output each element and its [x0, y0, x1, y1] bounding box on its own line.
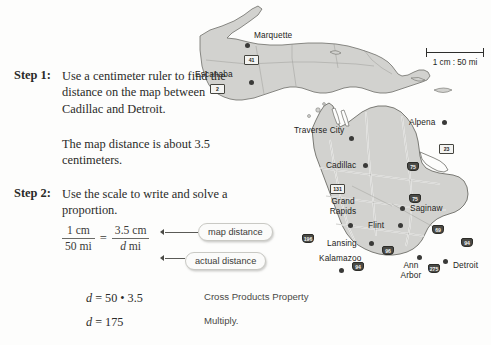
city-dot-saginaw	[400, 206, 405, 211]
route-shield-i-94: 94	[352, 262, 364, 271]
city-dot-traverse-city	[349, 136, 354, 141]
city-dot-detroit	[443, 259, 448, 264]
fraction-left-numerator: 1 cm	[64, 224, 93, 237]
step-2-label: Step 2:	[14, 186, 62, 219]
city-label-ann-arbor-line1: Ann	[403, 260, 418, 270]
city-label-grand-rapids: Grand Rapids	[320, 197, 366, 216]
city-dot-escanaba	[249, 80, 254, 85]
callout-actual-distance: actual distance	[185, 252, 266, 270]
equation-2-reason: Multiply.	[204, 315, 238, 330]
fraction-left: 1 cm 50 mi	[62, 224, 95, 253]
equation-1-expression: d = 50 • 3.5	[86, 291, 204, 306]
route-shield-us-23: 23	[439, 144, 454, 154]
city-dot-flint	[398, 223, 403, 228]
route-shield-i-75-south: 75	[409, 194, 421, 203]
city-label-marquette: Marquette	[254, 31, 292, 41]
city-dot-ann-arbor	[417, 255, 422, 260]
scale-label: 1 cm : 50 mi	[424, 58, 486, 67]
map-scale: 1 cm : 50 mi	[424, 48, 486, 67]
city-label-ann-arbor: Ann Arbor	[398, 261, 424, 280]
route-shield-i-96: 96	[382, 246, 394, 255]
proportion-equation: 1 cm 50 mi = 3.5 cm d mi	[62, 224, 149, 253]
arrowhead-actual-distance	[160, 255, 164, 261]
route-shield-us-131: 131	[330, 184, 345, 194]
step-1-body: Use a centimeter ruler to find the dista…	[62, 68, 237, 117]
fraction-right-denominator: d mi	[117, 240, 144, 253]
step-1-note: The map distance is about 3.5 centimeter…	[62, 136, 242, 169]
city-label-detroit: Detroit	[453, 261, 478, 271]
route-shield-i-275: 275	[428, 264, 440, 273]
step-1-label: Step 1:	[14, 68, 62, 117]
route-shield-i-75: 75	[407, 162, 419, 171]
city-dot-grand-rapids	[348, 223, 353, 228]
city-dot-marquette	[245, 43, 250, 48]
route-shield-i-94-east: 94	[461, 238, 473, 247]
city-label-traverse-city: Traverse City	[294, 126, 344, 136]
worksheet-page: 1 cm : 50 mi Marquette Escanaba Traverse…	[0, 0, 491, 345]
equation-row-1: d = 50 • 3.5 Cross Products Property	[86, 291, 309, 306]
island-shape	[316, 108, 320, 112]
city-dot-kalamazoo	[339, 268, 344, 273]
city-dot-alpena	[442, 120, 447, 125]
city-label-lansing: Lansing	[327, 239, 357, 249]
scale-ruler-icon	[424, 48, 486, 57]
fraction-left-denominator: 50 mi	[62, 240, 95, 253]
city-label-cadillac: Cadillac	[326, 161, 356, 171]
city-label-grand-rapids-line1: Grand	[331, 196, 355, 206]
unit-mi: mi	[129, 240, 141, 253]
arrowhead-map-distance	[160, 229, 164, 235]
arrow-actual-distance	[165, 258, 185, 259]
equals-sign: =	[100, 231, 107, 246]
island-shape	[308, 115, 311, 118]
city-label-alpena: Alpena	[409, 118, 435, 128]
city-label-ann-arbor-line2: Arbor	[401, 270, 422, 280]
island-shape	[323, 103, 326, 106]
city-dot-cadillac	[363, 163, 368, 168]
step-2-body: Use the scale to write and solve a propo…	[62, 186, 247, 219]
equation-2-expression: d = 175	[86, 315, 204, 330]
variable-d: d	[120, 240, 126, 253]
route-shield-i-69: 69	[432, 225, 444, 234]
step-1: Step 1: Use a centimeter ruler to find t…	[14, 68, 237, 117]
equation-1-reason: Cross Products Property	[204, 291, 309, 306]
fraction-right-numerator: 3.5 cm	[112, 224, 150, 237]
route-shield-i-196: 196	[302, 234, 314, 243]
city-label-grand-rapids-line2: Rapids	[330, 206, 356, 216]
city-label-flint: Flint	[368, 221, 384, 231]
city-label-saginaw: Saginaw	[410, 204, 443, 214]
city-dot-lansing	[369, 241, 374, 246]
equation-row-2: d = 175 Multiply.	[86, 315, 238, 330]
island-shape	[434, 88, 452, 93]
arrow-map-distance	[165, 232, 198, 233]
step-2: Step 2: Use the scale to write and solve…	[14, 186, 247, 219]
fraction-right: 3.5 cm d mi	[112, 224, 150, 253]
callout-map-distance: map distance	[198, 223, 273, 241]
fraction-left-bar	[62, 238, 95, 239]
fraction-right-bar	[112, 238, 150, 239]
route-shield-us-41: 41	[244, 55, 259, 65]
traverse-bay-2	[341, 110, 349, 126]
